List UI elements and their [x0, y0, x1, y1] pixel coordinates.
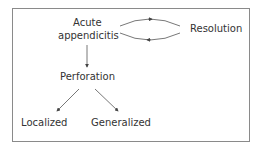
node-localized: Localized [21, 117, 67, 129]
node-acute-line2: appendicitis [58, 30, 119, 42]
node-generalized: Generalized [91, 117, 151, 129]
arrow-to-localized [57, 89, 79, 111]
arrow-to-generalized [95, 89, 118, 111]
node-perforation: Perforation [60, 71, 115, 83]
node-acute-line1: Acute [73, 17, 102, 29]
cycle-arrow-forward [120, 19, 180, 26]
node-resolution: Resolution [190, 23, 242, 35]
cycle-arrow-back [120, 33, 180, 40]
